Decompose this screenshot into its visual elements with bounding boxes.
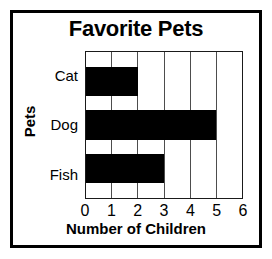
bar-fish <box>86 154 164 183</box>
x-tick-label: 6 <box>231 201 255 220</box>
x-tick-label: 1 <box>99 201 123 220</box>
bar-gap <box>86 96 242 111</box>
chart-figure: Favorite Pets Pets Cat Dog Fish <box>10 10 262 248</box>
plot-area <box>85 51 243 199</box>
chart-title: Favorite Pets <box>13 16 259 42</box>
x-tick-label: 0 <box>73 201 97 220</box>
bar-row <box>86 67 242 96</box>
bar-dog <box>86 110 216 139</box>
x-tick-label: 5 <box>205 201 229 220</box>
bars-layer <box>86 52 242 198</box>
x-tick-label: 3 <box>152 201 176 220</box>
y-axis-title: Pets <box>21 95 38 149</box>
x-axis-title: Number of Children <box>13 220 259 237</box>
bar-gap <box>86 140 242 155</box>
category-label-cat: Cat <box>37 51 81 100</box>
bar-cat <box>86 67 138 96</box>
category-label-column: Cat Dog Fish <box>37 51 81 199</box>
x-tick-label: 4 <box>178 201 202 220</box>
bar-gap <box>86 183 242 198</box>
bar-gap <box>86 52 242 67</box>
x-tick-labels: 0123456 <box>85 201 243 221</box>
bar-row <box>86 154 242 183</box>
category-label-dog: Dog <box>37 100 81 149</box>
bar-row <box>86 110 242 139</box>
category-label-fish: Fish <box>37 150 81 199</box>
x-tick-label: 2 <box>126 201 150 220</box>
